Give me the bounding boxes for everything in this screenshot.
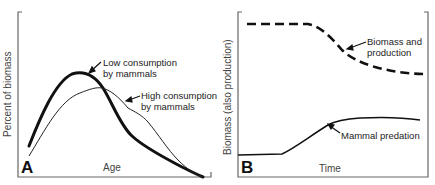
panel-b-arrow-predation [328, 124, 340, 133]
panel-a-letter: A [21, 158, 33, 178]
panel-b-letter: B [241, 158, 253, 178]
panel-a-arrow-high [126, 96, 140, 102]
panel-b-x-axis-label: Time [319, 163, 341, 174]
panel-a-y-axis-label: Percent of biomass [2, 51, 13, 137]
figure-canvas [0, 0, 435, 185]
panel-a-arrow-low [89, 62, 101, 73]
panel-b-annotation-mammal-predation: Mammal predation [341, 131, 420, 142]
panel-a-x-axis-label: Age [103, 162, 121, 173]
panel-b-y-axis-label: Biomass (also production) [222, 39, 233, 155]
panel-b-annotation-biomass-production: Biomass and production [367, 37, 422, 58]
panel-b-arrow-biomass [347, 42, 366, 50]
panel-a-annotation-low-consumption: Low consumption by mammals [103, 58, 177, 79]
panel-a-annotation-high-consumption: High consumption by mammals [141, 91, 217, 112]
